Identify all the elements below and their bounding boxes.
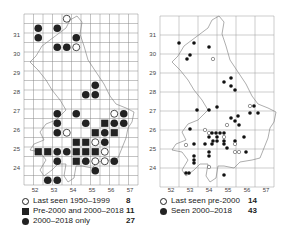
record-open-circle bbox=[211, 57, 214, 60]
record-filled-circle bbox=[101, 138, 109, 146]
record-square bbox=[92, 148, 99, 155]
right-legend: Last seen pre-2000 14 Seen 2000–2018 43 bbox=[160, 196, 280, 216]
filled-square-icon bbox=[22, 208, 29, 215]
right-map-grid bbox=[142, 0, 284, 190]
record-filled-circle bbox=[82, 91, 90, 99]
record-filled-circle bbox=[82, 157, 90, 165]
record-open-circle bbox=[233, 142, 236, 145]
record-open-circle bbox=[233, 150, 236, 153]
record-filled-circle bbox=[110, 157, 118, 165]
record-open-circle bbox=[248, 104, 251, 107]
record-filled-circle bbox=[110, 119, 118, 127]
record-open-circle bbox=[92, 158, 99, 165]
record-filled-circle bbox=[63, 43, 71, 51]
y-tick: 25 bbox=[142, 146, 156, 152]
record-filled-circle bbox=[252, 104, 256, 108]
record-open-circle bbox=[63, 15, 70, 22]
record-filled-circle bbox=[120, 119, 128, 127]
record-square bbox=[73, 139, 80, 146]
open-circle-icon bbox=[160, 198, 167, 205]
record-filled-circle bbox=[233, 88, 237, 92]
record-filled-circle bbox=[256, 111, 260, 115]
x-tick: 55 bbox=[221, 187, 235, 193]
y-tick: 25 bbox=[6, 146, 20, 152]
record-open-circle bbox=[184, 143, 187, 146]
x-tick: 56 bbox=[104, 187, 118, 193]
record-filled-circle bbox=[72, 34, 80, 42]
legend-label: 2000–2018 only bbox=[33, 216, 90, 226]
y-tick: 28 bbox=[142, 89, 156, 95]
record-filled-circle bbox=[53, 43, 61, 51]
x-tick: 53 bbox=[183, 187, 197, 193]
record-open-circle bbox=[63, 129, 70, 136]
record-open-circle bbox=[92, 139, 99, 146]
legend-item-seen-2000-2018: Seen 2000–2018 43 bbox=[160, 206, 280, 216]
y-tick: 29 bbox=[142, 70, 156, 76]
y-tick: 30 bbox=[142, 51, 156, 57]
left-legend: Last seen 1950–1999 8 Pre-2000 and 2000–… bbox=[22, 196, 140, 226]
record-open-circle bbox=[222, 135, 225, 138]
record-filled-circle bbox=[192, 41, 196, 45]
record-filled-circle bbox=[185, 57, 189, 61]
record-filled-circle bbox=[248, 111, 252, 115]
record-filled-circle bbox=[53, 129, 61, 137]
record-filled-circle bbox=[34, 24, 42, 32]
record-filled-circle bbox=[233, 119, 237, 123]
record-open-circle bbox=[237, 150, 240, 153]
record-filled-circle bbox=[187, 171, 191, 175]
record-filled-circle bbox=[222, 142, 226, 146]
record-filled-circle bbox=[222, 173, 226, 177]
legend-count: 8 bbox=[126, 196, 130, 206]
y-tick: 26 bbox=[6, 127, 20, 133]
legend-item-last-seen-1950-1999: Last seen 1950–1999 8 bbox=[22, 196, 140, 206]
legend-label: Pre-2000 and 2000–2018 bbox=[33, 206, 124, 216]
legend-label: Last seen 1950–1999 bbox=[33, 196, 110, 206]
record-filled-circle bbox=[120, 110, 128, 118]
record-filled-circle bbox=[229, 76, 233, 80]
record-square bbox=[44, 148, 51, 155]
record-open-circle bbox=[73, 44, 80, 51]
record-filled-circle bbox=[207, 135, 211, 139]
y-tick: 27 bbox=[142, 108, 156, 114]
record-filled-circle bbox=[53, 157, 61, 165]
record-open-circle bbox=[207, 131, 210, 134]
record-filled-circle bbox=[72, 110, 80, 118]
y-tick: 27 bbox=[6, 108, 20, 114]
record-open-circle bbox=[203, 128, 206, 131]
record-filled-circle bbox=[207, 150, 211, 154]
record-filled-circle bbox=[53, 119, 61, 127]
filled-circle-icon bbox=[160, 208, 167, 215]
record-filled-circle bbox=[215, 139, 219, 143]
record-square bbox=[111, 129, 118, 136]
record-filled-circle bbox=[215, 105, 219, 109]
record-open-circle bbox=[101, 148, 108, 155]
open-circle-icon bbox=[22, 198, 29, 205]
left-map-grid bbox=[0, 0, 142, 190]
legend-item-pre-2000-and-2000-2018: Pre-2000 and 2000–2018 11 bbox=[22, 206, 140, 216]
legend-label: Last seen pre-2000 bbox=[171, 196, 240, 206]
record-filled-circle bbox=[192, 142, 196, 146]
record-filled-circle bbox=[177, 41, 181, 45]
record-filled-circle bbox=[222, 80, 226, 84]
legend-count: 11 bbox=[126, 206, 134, 216]
legend-label: Seen 2000–2018 bbox=[171, 206, 232, 216]
record-filled-circle bbox=[91, 91, 99, 99]
record-filled-circle bbox=[229, 116, 233, 120]
record-filled-circle bbox=[53, 176, 61, 184]
x-tick: 57 bbox=[123, 187, 137, 193]
record-filled-circle bbox=[195, 108, 199, 112]
record-filled-circle bbox=[63, 148, 71, 156]
left-map-panel: 31 30 29 28 27 26 25 24 52 53 54 55 56 5… bbox=[0, 0, 142, 227]
record-filled-circle bbox=[207, 45, 211, 49]
record-filled-circle bbox=[207, 108, 211, 112]
record-filled-circle bbox=[91, 81, 99, 89]
record-filled-circle bbox=[44, 176, 52, 184]
record-filled-circle bbox=[53, 110, 61, 118]
record-filled-circle bbox=[210, 131, 214, 135]
x-tick: 57 bbox=[259, 187, 273, 193]
record-filled-circle bbox=[237, 123, 241, 127]
record-square bbox=[73, 158, 80, 165]
record-square bbox=[82, 148, 89, 155]
record-square bbox=[101, 120, 108, 127]
record-filled-circle bbox=[53, 148, 61, 156]
